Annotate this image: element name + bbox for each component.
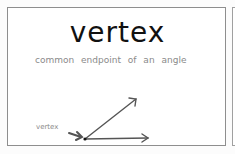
angle-diagram [8, 8, 227, 147]
flashcard-canvas: vertex common endpoint of an angle verte… [0, 0, 235, 154]
pointer-arrow-icon [69, 132, 82, 140]
upper-ray-arrow-icon [85, 98, 136, 139]
vocabulary-card: vertex common endpoint of an angle verte… [7, 7, 226, 146]
next-card-edge [232, 7, 235, 146]
lower-ray-arrow-icon [85, 134, 148, 142]
vertex-point-icon [83, 137, 86, 140]
